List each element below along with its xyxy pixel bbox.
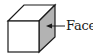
cube-face-diagram: Face [0,0,93,56]
cube-front-face [8,21,39,52]
face-label: Face [66,19,93,32]
